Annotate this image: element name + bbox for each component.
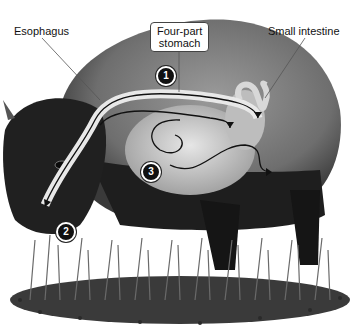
step-marker-1: 1 bbox=[156, 66, 176, 86]
esophagus-label: Esophagus bbox=[14, 25, 69, 37]
step-marker-2: 2 bbox=[56, 222, 76, 242]
stomach-label: Four-part stomach bbox=[150, 22, 209, 52]
stomach-label-line1: Four-part bbox=[157, 25, 202, 37]
step-marker-3: 3 bbox=[141, 162, 161, 182]
bison-diagram: Esophagus Four-part stomach Small intest… bbox=[0, 0, 354, 330]
small-intestine-label: Small intestine bbox=[268, 25, 340, 37]
stomach-label-line2: stomach bbox=[157, 37, 202, 49]
